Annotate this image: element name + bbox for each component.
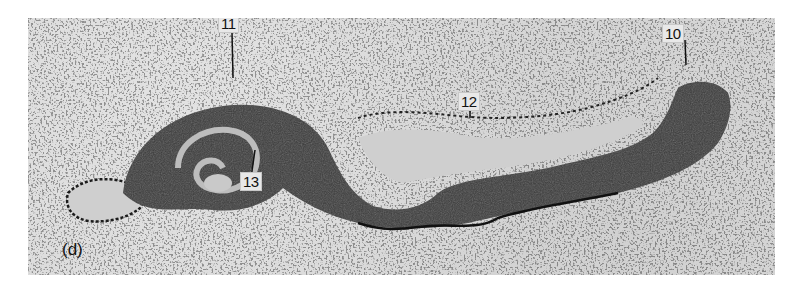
panel-letter: (d) [62, 240, 83, 259]
tissue-section-image [28, 18, 775, 275]
annotation-label-10: 10 [662, 24, 684, 43]
annotation-label-11: 11 [218, 18, 239, 33]
label-12-text: 12 [461, 93, 477, 110]
micrograph-panel: 11 12 10 13 (d) [28, 18, 775, 275]
annotation-label-12: 12 [458, 92, 480, 111]
label-10-text: 10 [665, 25, 681, 42]
label-11-text: 11 [221, 18, 236, 32]
label-13-text: 13 [243, 173, 259, 190]
annotation-label-13: 13 [240, 172, 262, 191]
